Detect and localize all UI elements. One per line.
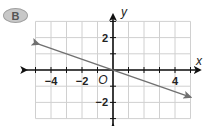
x-tick-label: −2 bbox=[76, 75, 89, 87]
coordinate-graph: −4−242−2Oxy bbox=[0, 0, 204, 126]
y-tick-label: 2 bbox=[102, 32, 108, 44]
x-tick-label: −4 bbox=[45, 75, 58, 87]
x-tick-label: 4 bbox=[172, 75, 179, 87]
x-axis-label: x bbox=[195, 54, 203, 68]
origin-label: O bbox=[98, 73, 107, 87]
y-tick-label: −2 bbox=[95, 96, 108, 108]
y-axis-label: y bbox=[120, 5, 128, 19]
